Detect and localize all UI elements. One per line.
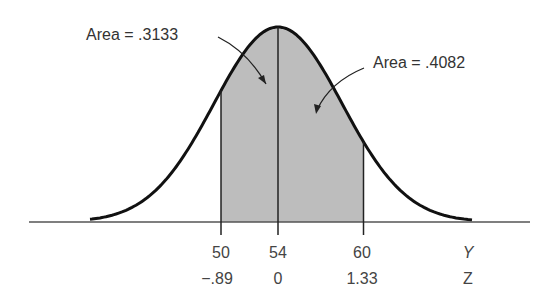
y-tick-54: 54 xyxy=(269,244,287,261)
z-tick-neg089: −.89 xyxy=(201,270,233,287)
area-label-right: Area = .4082 xyxy=(373,54,465,71)
area-label-left: Area = .3133 xyxy=(86,26,178,43)
normal-curve-diagram: Area = .3133 Area = .4082 50 54 60 Y −.8… xyxy=(0,0,553,306)
z-axis-name: Z xyxy=(463,270,473,287)
y-tick-60: 60 xyxy=(353,244,371,261)
y-tick-50: 50 xyxy=(212,244,230,261)
z-tick-0: 0 xyxy=(274,270,283,287)
z-tick-133: 1.33 xyxy=(346,270,377,287)
y-axis-name: Y xyxy=(463,244,475,261)
